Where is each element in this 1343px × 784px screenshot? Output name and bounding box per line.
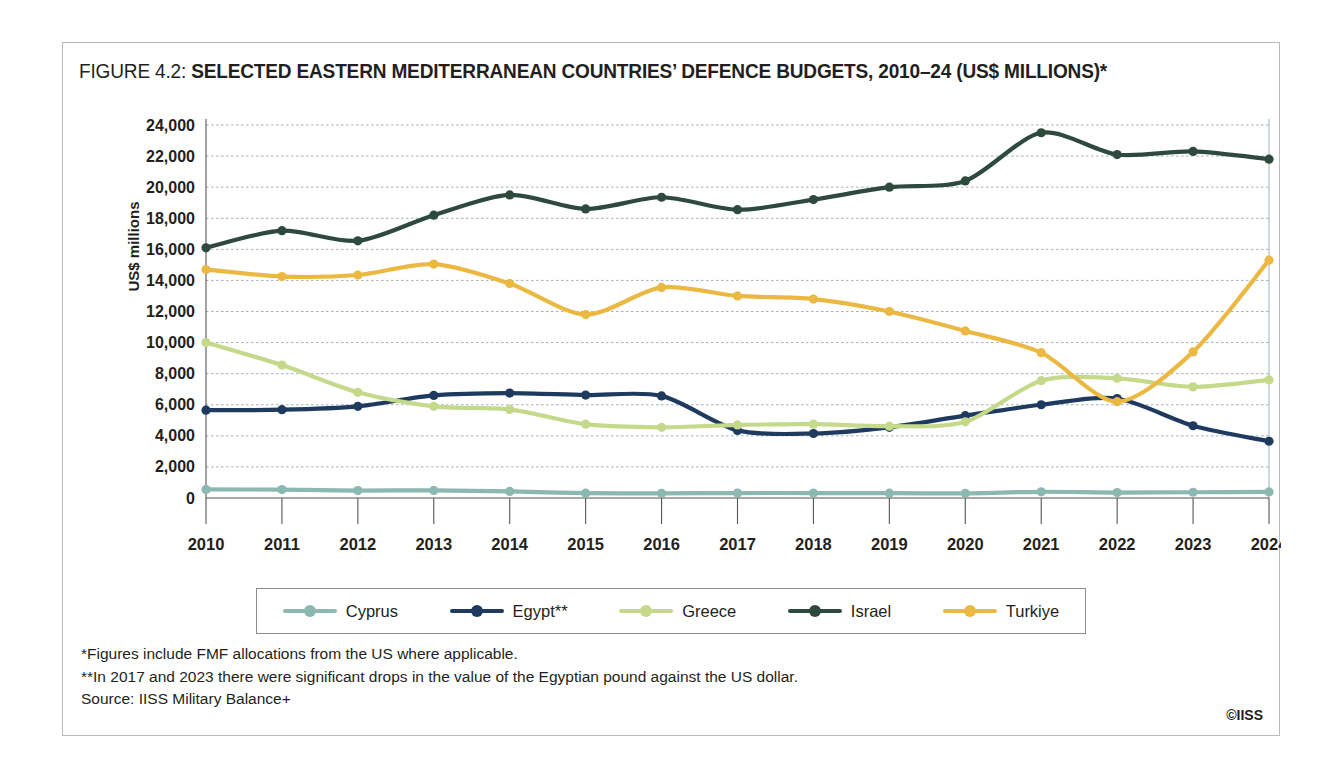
data-point [1037, 487, 1046, 496]
data-point [809, 294, 818, 303]
legend-item-cyprus[interactable]: Cyprus [283, 602, 398, 621]
chart-legend: CyprusEgypt**GreeceIsraelTurkiye [256, 588, 1086, 634]
data-point [1113, 150, 1122, 159]
data-point [1037, 348, 1046, 357]
data-point [429, 486, 438, 495]
data-point [353, 270, 362, 279]
data-point [657, 193, 666, 202]
data-point [657, 489, 666, 498]
footnotes: *Figures include FMF allocations from th… [81, 643, 1181, 711]
data-point [961, 417, 970, 426]
data-point [1113, 374, 1122, 383]
legend-item-turkiye[interactable]: Turkiye [943, 602, 1059, 621]
legend-swatch-icon [619, 604, 673, 618]
legend-label: Greece [682, 602, 736, 621]
x-axis-tick-label: 2015 [567, 535, 604, 553]
y-axis-tick-label: 14,000 [146, 272, 195, 289]
data-point [1188, 347, 1197, 356]
data-point [581, 391, 590, 400]
data-point [809, 429, 818, 438]
y-axis-tick-label: 6,000 [155, 396, 195, 413]
footnote-line-3: Source: IISS Military Balance+ [81, 688, 1181, 711]
series-israel [201, 128, 1273, 252]
data-point [201, 485, 210, 494]
data-point [809, 488, 818, 497]
data-point [885, 422, 894, 431]
series-line [206, 343, 1269, 428]
data-point [733, 488, 742, 497]
data-point [1113, 397, 1122, 406]
data-point [353, 486, 362, 495]
line-chart-svg: 02,0004,0006,0008,00010,00012,00014,0001… [63, 43, 1281, 603]
data-point [1264, 155, 1273, 164]
data-point [1264, 487, 1273, 496]
data-point [1188, 382, 1197, 391]
data-point [961, 489, 970, 498]
series-line [206, 260, 1269, 401]
data-point [1188, 421, 1197, 430]
y-axis-tick-label: 18,000 [146, 210, 195, 227]
legend-item-israel[interactable]: Israel [788, 602, 891, 621]
x-axis-tick-label: 2022 [1099, 535, 1136, 553]
figure-container: FIGURE 4.2: SELECTED EASTERN MEDITERRANE… [62, 42, 1280, 736]
y-axis-tick-label: 12,000 [146, 303, 195, 320]
data-point [1113, 488, 1122, 497]
series-greece [201, 338, 1273, 432]
data-point [1188, 147, 1197, 156]
y-axis-tick-label: 22,000 [146, 148, 195, 165]
data-point [505, 487, 514, 496]
data-point [1188, 488, 1197, 497]
data-point [581, 420, 590, 429]
x-axis-tick-label: 2011 [264, 535, 300, 553]
data-point [277, 361, 286, 370]
data-point [277, 226, 286, 235]
legend-swatch-icon [283, 604, 337, 618]
data-point [429, 259, 438, 268]
legend-swatch-icon [450, 604, 504, 618]
data-point [733, 291, 742, 300]
legend-label: Cyprus [346, 602, 398, 621]
data-point [885, 489, 894, 498]
data-point [961, 326, 970, 335]
data-point [353, 402, 362, 411]
data-point [201, 243, 210, 252]
y-axis-tick-label: 20,000 [146, 179, 195, 196]
data-point [1037, 400, 1046, 409]
data-point [1264, 437, 1273, 446]
x-axis-tick-label: 2020 [947, 535, 984, 553]
data-point [1037, 376, 1046, 385]
x-axis-tick-label: 2023 [1175, 535, 1212, 553]
legend-item-greece[interactable]: Greece [619, 602, 736, 621]
data-point [961, 176, 970, 185]
data-point [277, 485, 286, 494]
x-axis-tick-label: 2024 [1251, 535, 1281, 553]
legend-swatch-icon [788, 604, 842, 618]
legend-label: Turkiye [1006, 602, 1059, 621]
data-point [885, 183, 894, 192]
data-point [353, 236, 362, 245]
y-axis-tick-label: 10,000 [146, 334, 195, 351]
series-egypt [201, 388, 1273, 445]
y-axis-tick-label: 16,000 [146, 241, 195, 258]
data-point [429, 211, 438, 220]
footnote-line-2: **In 2017 and 2023 there were significan… [81, 666, 1181, 689]
data-point [277, 272, 286, 281]
legend-item-egypt[interactable]: Egypt** [450, 602, 568, 621]
data-point [1264, 375, 1273, 384]
data-point [201, 406, 210, 415]
x-axis-tick-label: 2016 [643, 535, 680, 553]
copyright-mark: ©IISS [1226, 707, 1263, 723]
series-line [206, 132, 1269, 247]
data-point [1037, 128, 1046, 137]
data-point [201, 265, 210, 274]
data-point [885, 307, 894, 316]
data-point [505, 388, 514, 397]
data-point [657, 391, 666, 400]
legend-swatch-icon [943, 604, 997, 618]
data-point [581, 310, 590, 319]
y-axis-tick-label: 4,000 [155, 427, 195, 444]
data-point [505, 405, 514, 414]
data-point [201, 338, 210, 347]
data-point [657, 283, 666, 292]
data-point [429, 391, 438, 400]
